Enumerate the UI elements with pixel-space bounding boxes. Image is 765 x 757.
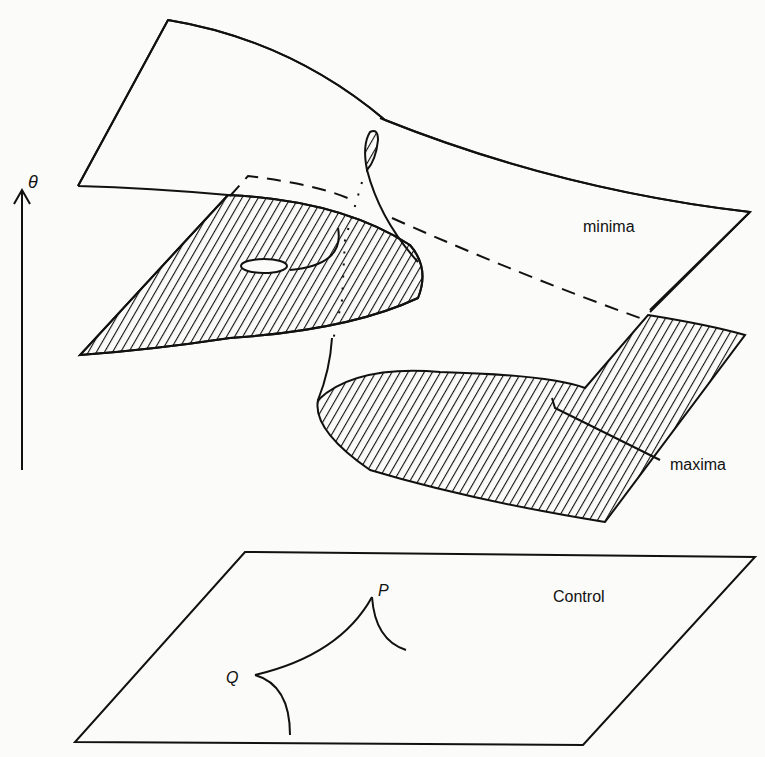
maxima-label: maxima [670,456,726,473]
minima-label: minima [583,218,635,235]
point-q-label: Q [226,669,238,686]
theta-axis: θ [14,172,38,470]
theta-label: θ [28,172,38,192]
control-label: Control [553,588,605,605]
lower-sheet-maxima: maxima [317,315,745,522]
point-p-label: P [378,582,389,599]
control-plane: Control P Q [75,552,755,745]
cusp-catastrophe-diagram: θ maxima minima Control [0,0,765,757]
